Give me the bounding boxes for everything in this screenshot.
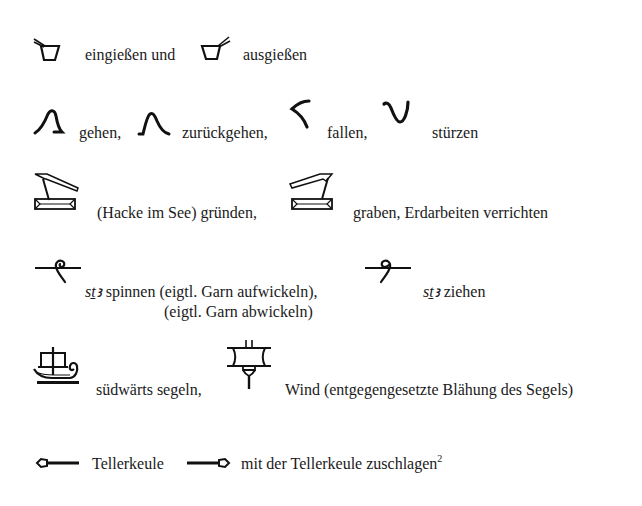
- text-wind: Wind (entgegengesetzte Blähung des Segel…: [285, 382, 573, 398]
- mace-right-icon: [186, 457, 230, 469]
- ship-with-sail-icon: [32, 345, 82, 387]
- text-ziehen: sṯꜣ ziehen: [423, 284, 485, 300]
- text-graben: graben, Erdarbeiten verrichten: [353, 205, 548, 221]
- footnote-marker: 2: [437, 453, 442, 464]
- translit-sta: sṯꜣ: [85, 283, 102, 300]
- text-abwickeln: (eigtl. Garn abwickeln): [164, 304, 313, 320]
- text-fallen: fallen,: [327, 125, 367, 141]
- text-stuerzen: stürzen: [432, 125, 478, 141]
- text-ziehen-desc: ziehen: [440, 283, 486, 300]
- mace-left-icon: [36, 457, 80, 469]
- falling-icon: [289, 99, 313, 131]
- text-gruenden: (Hacke im See) gründen,: [97, 205, 257, 221]
- text-zuschlagen-desc: mit der Tellerkeule zuschlagen: [241, 455, 437, 472]
- sail-mast-icon: [225, 338, 273, 390]
- hoe-in-lake-icon: [33, 172, 79, 212]
- pour-out-vessel-icon: [200, 36, 232, 62]
- hoe-in-lake-reversed-icon: [288, 172, 334, 212]
- text-spinnen-desc: spinnen (eigtl. Garn aufwickeln),: [102, 283, 318, 300]
- text-gehen: gehen,: [79, 125, 121, 141]
- text-ausgiessen: ausgießen: [243, 47, 307, 63]
- text-spinnen: sṯꜣ spinnen (eigtl. Garn aufwickeln),: [85, 284, 318, 300]
- text-eingiessen: eingießen und: [85, 47, 175, 63]
- spindle-icon: [35, 258, 81, 284]
- walking-back-legs-icon: [137, 112, 171, 136]
- text-zurueckgehen: zurückgehen,: [182, 125, 268, 141]
- text-zuschlagen: mit der Tellerkeule zuschlagen2: [241, 456, 442, 472]
- walking-legs-icon: [34, 110, 68, 136]
- overturn-icon: [382, 100, 412, 128]
- translit-sta-2: sṯꜣ: [423, 283, 440, 300]
- pour-in-vessel-icon: [33, 37, 61, 63]
- text-tellerkeule: Tellerkeule: [92, 456, 164, 472]
- text-suedwaerts-segeln: südwärts segeln,: [96, 382, 202, 398]
- spindle-reversed-icon: [365, 258, 411, 284]
